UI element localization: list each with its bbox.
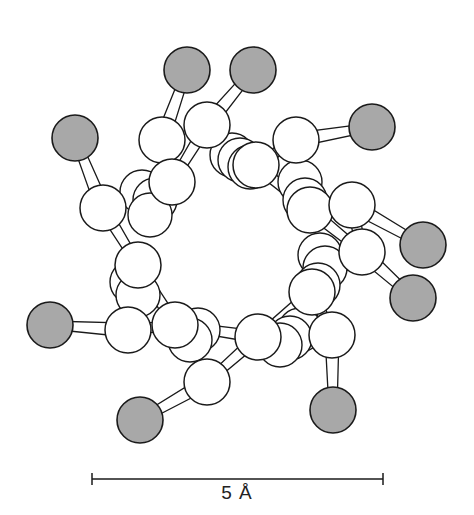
ring-atom: [184, 359, 230, 405]
substituent-atom: [390, 275, 436, 321]
substituent-atom: [27, 302, 73, 348]
ring-atom: [287, 187, 333, 233]
ring-atom: [139, 117, 185, 163]
ring-atom: [309, 312, 355, 358]
ring-atom: [184, 102, 230, 148]
ring-atom: [339, 229, 385, 275]
ring-atom: [80, 185, 126, 231]
substituent-atom: [230, 47, 276, 93]
molecule-diagram: [0, 0, 474, 515]
ring-atom: [329, 182, 375, 228]
ring-atom: [105, 307, 151, 353]
substituent-atom: [52, 115, 98, 161]
ring-atom: [115, 242, 161, 288]
ring-atom: [149, 159, 195, 205]
ring-atom: [235, 314, 281, 360]
substituent-atom: [349, 104, 395, 150]
scale-bar-label: 5 Å: [0, 482, 474, 504]
ring-atom: [233, 142, 279, 188]
ring-atom: [289, 269, 335, 315]
substituent-atom: [400, 222, 446, 268]
ring-atom: [273, 117, 319, 163]
ring-atom: [152, 302, 198, 348]
substituent-atom: [310, 387, 356, 433]
substituent-atom: [164, 47, 210, 93]
substituent-atom: [117, 397, 163, 443]
